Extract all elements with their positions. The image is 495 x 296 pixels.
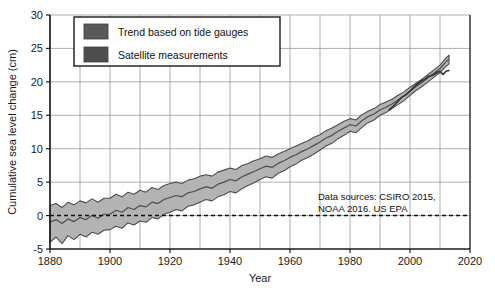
chart-canvas: 18801900192019401960198020002020-5051015… [0, 0, 495, 296]
y-tick-label: 10 [31, 143, 43, 155]
x-tick-label: 1940 [218, 255, 242, 267]
y-tick-label: 15 [31, 109, 43, 121]
legend-swatch [84, 24, 108, 39]
y-axis-title: Cumulative sea level change (cm) [6, 49, 18, 215]
legend-swatch [84, 47, 108, 62]
chart-legend: Trend based on tide gaugesSatellite meas… [74, 17, 280, 66]
x-tick-label: 2020 [458, 255, 482, 267]
annotation-line-2: NOAA 2016. US EPA [318, 203, 408, 214]
x-axis-ticks: 18801900192019401960198020002020 [38, 249, 482, 267]
x-tick-label: 1900 [98, 255, 122, 267]
y-tick-label: 5 [37, 176, 43, 188]
y-tick-label: -5 [33, 243, 43, 255]
legend-label: Satellite measurements [118, 49, 228, 61]
annotation-line-1: Data sources: CSIRO 2015, [318, 191, 436, 202]
y-tick-label: 30 [31, 9, 43, 21]
x-tick-label: 1880 [38, 255, 62, 267]
x-axis-title: Year [249, 272, 272, 284]
sea-level-chart: 18801900192019401960198020002020-5051015… [0, 0, 495, 296]
y-tick-label: 0 [37, 210, 43, 222]
x-tick-label: 2000 [398, 255, 422, 267]
x-tick-label: 1960 [278, 255, 302, 267]
y-tick-label: 25 [31, 42, 43, 54]
y-axis-ticks: -5051015202530 [31, 9, 50, 255]
y-tick-label: 20 [31, 76, 43, 88]
legend-label: Trend based on tide gauges [118, 26, 248, 38]
x-tick-label: 1920 [158, 255, 182, 267]
x-tick-label: 1980 [338, 255, 362, 267]
